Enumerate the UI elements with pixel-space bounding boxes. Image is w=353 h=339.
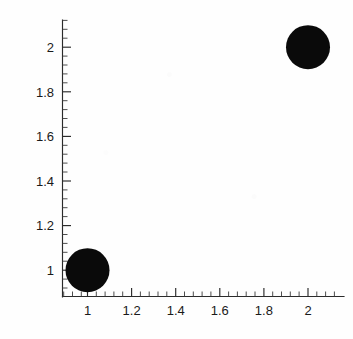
x-axis-tick-labels: 1 1.2 1.4 1.6 1.8 2 <box>84 303 312 318</box>
y-tick-label: 1.6 <box>36 129 54 144</box>
scatter-point <box>286 25 330 69</box>
x-tick-label: 2 <box>304 303 311 318</box>
y-tick-label: 1.8 <box>36 85 54 100</box>
y-axis-ticks <box>63 20 72 288</box>
x-tick-label: 1.4 <box>167 303 185 318</box>
scatter-plot-figure: 2 1.8 1.6 1.4 1.2 1 1 1.2 1.4 1.6 1.8 2 <box>0 0 353 339</box>
y-tick-label: 2 <box>47 40 54 55</box>
y-tick-label: 1.4 <box>36 174 54 189</box>
data-markers <box>66 25 331 292</box>
x-tick-label: 1 <box>84 303 91 318</box>
y-tick-label: 1 <box>47 263 54 278</box>
x-tick-label: 1.8 <box>255 303 273 318</box>
x-tick-label: 1.2 <box>123 303 141 318</box>
y-tick-label: 1.2 <box>36 218 54 233</box>
plot-canvas: 2 1.8 1.6 1.4 1.2 1 1 1.2 1.4 1.6 1.8 2 <box>0 0 353 339</box>
x-tick-label: 1.6 <box>211 303 229 318</box>
y-axis-tick-labels: 2 1.8 1.6 1.4 1.2 1 <box>36 40 54 278</box>
x-axis-ticks <box>64 288 335 297</box>
scatter-point <box>66 248 110 292</box>
